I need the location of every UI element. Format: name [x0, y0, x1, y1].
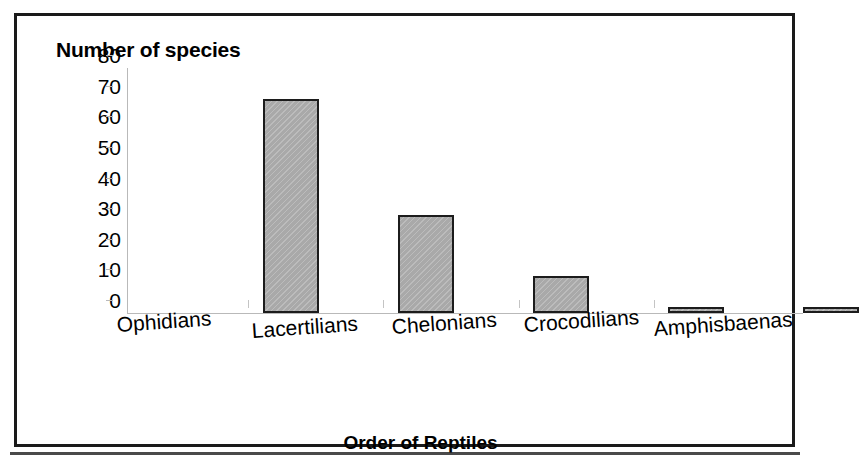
y-axis-tick-label: 80 [75, 45, 121, 66]
x-axis-category-label: Lacertilians [251, 312, 359, 343]
y-axis-tick-mark [106, 147, 113, 148]
y-axis-tick-mark [106, 300, 113, 301]
plot-area [127, 68, 803, 313]
x-axis-category-label: Ophidians [116, 306, 212, 337]
y-axis-tick-mark [106, 86, 113, 87]
y-axis-tick-label: 10 [75, 259, 121, 280]
bar-lacertilians [398, 215, 454, 313]
bar-ophidians [263, 99, 319, 313]
y-axis-tick-label: 70 [75, 75, 121, 96]
bar-chelonians [533, 276, 589, 313]
y-axis-tick-label: 30 [75, 198, 121, 219]
y-axis-tick-mark [106, 55, 113, 56]
y-axis-tick-mark [106, 116, 113, 117]
x-axis-category-tick [248, 300, 249, 308]
y-axis-tick-label: 40 [75, 167, 121, 188]
y-axis-tick-mark [106, 208, 113, 209]
x-axis-category-tick [654, 300, 655, 308]
scan-edge-artifact [10, 452, 800, 455]
y-axis-tick-label: 0 [75, 290, 121, 311]
x-axis-title: Order of Reptiles [17, 432, 824, 454]
y-axis-tick-mark [106, 269, 113, 270]
y-axis-tick-label: 50 [75, 136, 121, 157]
y-axis-tick-labels: 01020304050607080 [17, 16, 121, 468]
chart-frame: Number of species 01020304050607080 Orde… [14, 13, 795, 447]
bar-amphisbaenas [803, 307, 859, 313]
y-axis-tick-mark [106, 178, 113, 179]
y-axis-tick-label: 60 [75, 106, 121, 127]
x-axis-category-tick [383, 300, 384, 308]
x-axis-category-tick [519, 300, 520, 308]
y-axis-tick-mark [106, 239, 113, 240]
y-axis-tick-label: 20 [75, 228, 121, 249]
